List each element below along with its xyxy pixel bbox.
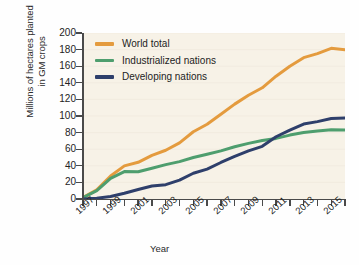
y-tick <box>76 182 82 183</box>
y-tick-label: 0 <box>40 193 76 204</box>
legend-swatch-icon <box>95 42 114 45</box>
series-line-developing-nations <box>83 118 345 199</box>
y-tick <box>76 49 82 50</box>
x-tick <box>344 200 345 206</box>
y-axis-title: Millions of hectares planted in GM crops <box>24 0 47 142</box>
x-axis-title: Year <box>150 243 169 254</box>
y-tick <box>76 149 82 150</box>
x-tick-label: 1997 <box>73 194 96 216</box>
legend-item: Industrialized nations <box>95 54 216 68</box>
x-tick <box>289 200 290 206</box>
figure-container: 020406080100120140160180200 199719992001… <box>0 0 359 265</box>
legend-swatch-icon <box>95 59 114 62</box>
x-tick <box>206 200 207 206</box>
legend-label: Industrialized nations <box>122 55 216 67</box>
y-tick <box>76 99 82 100</box>
y-tick <box>76 82 82 83</box>
chart-legend: World totalIndustrialized nationsDevelop… <box>95 37 216 87</box>
y-axis-line <box>82 33 84 200</box>
legend-item: World total <box>95 37 216 51</box>
legend-label: World total <box>122 38 170 50</box>
y-tick <box>76 165 82 166</box>
legend-swatch-icon <box>95 75 114 78</box>
x-tick <box>234 200 235 206</box>
y-tick-label: 60 <box>40 143 76 154</box>
y-axis-title-line-2: in GM crops <box>35 36 46 86</box>
y-tick <box>76 115 82 116</box>
y-tick-label: 40 <box>40 160 76 171</box>
series-line-industrialized-nations <box>83 130 345 198</box>
x-tick <box>179 200 180 206</box>
legend-item: Developing nations <box>95 70 216 84</box>
x-tick <box>151 200 152 206</box>
x-tick <box>262 200 263 206</box>
legend-label: Developing nations <box>122 71 207 83</box>
x-tick <box>96 200 97 206</box>
x-tick <box>317 200 318 206</box>
y-tick <box>76 66 82 67</box>
y-tick <box>76 132 82 133</box>
y-tick-label: 20 <box>40 176 76 187</box>
x-tick <box>124 200 125 206</box>
y-tick <box>76 32 82 33</box>
y-axis-title-line-1: Millions of hectares planted <box>24 5 35 117</box>
